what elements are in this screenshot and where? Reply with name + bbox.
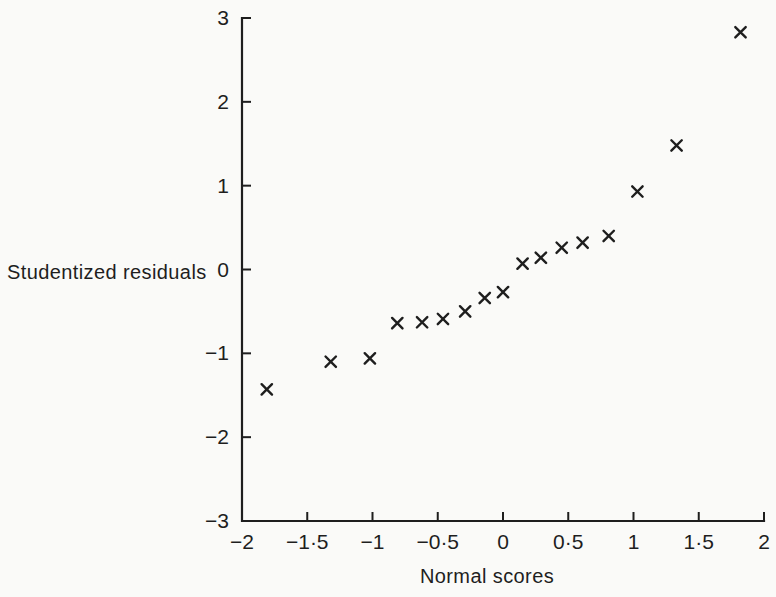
normal-probability-plot-figure: −2−1·5−1−0·500·511·523210−1−2−3 Studenti… <box>0 0 776 597</box>
data-point-marker <box>577 237 587 247</box>
y-tick-label: −2 <box>205 425 229 448</box>
x-tick-label: 1 <box>628 530 640 553</box>
y-tick-label: 0 <box>217 258 229 281</box>
data-point-marker <box>417 317 427 327</box>
x-axis-title: Normal scores <box>420 565 554 588</box>
data-point-marker <box>326 357 336 367</box>
data-point-marker <box>262 384 272 394</box>
data-point-marker <box>438 314 448 324</box>
y-tick-label: 1 <box>217 174 229 197</box>
y-axis-title: Studentized residuals <box>7 261 207 284</box>
x-tick-label: 1·5 <box>684 530 714 553</box>
y-tick-label: −3 <box>205 509 229 532</box>
data-point-marker <box>392 318 402 328</box>
x-tick-label: −0·5 <box>416 530 459 553</box>
y-tick-label: 3 <box>217 6 229 29</box>
data-point-marker <box>604 231 614 241</box>
y-tick-label: 2 <box>217 90 229 113</box>
x-tick-label: 0·5 <box>553 530 583 553</box>
data-point-marker <box>365 353 375 363</box>
data-point-marker <box>517 258 527 268</box>
x-tick-label: −1 <box>361 530 385 553</box>
x-tick-label: 2 <box>758 530 770 553</box>
x-tick-label: −2 <box>230 530 254 553</box>
data-point-marker <box>632 186 642 196</box>
data-point-marker <box>480 293 490 303</box>
x-tick-label: −1·5 <box>286 530 329 553</box>
y-tick-label: −1 <box>205 341 229 364</box>
axis-line <box>242 18 764 521</box>
data-point-marker <box>498 287 508 297</box>
x-tick-label: 0 <box>497 530 509 553</box>
data-point-marker <box>536 253 546 263</box>
data-point-marker <box>460 306 470 316</box>
data-point-marker <box>735 27 745 37</box>
data-point-marker <box>671 140 681 150</box>
data-point-marker <box>557 243 567 253</box>
scatter-plot-canvas: −2−1·5−1−0·500·511·523210−1−2−3 <box>0 0 776 597</box>
